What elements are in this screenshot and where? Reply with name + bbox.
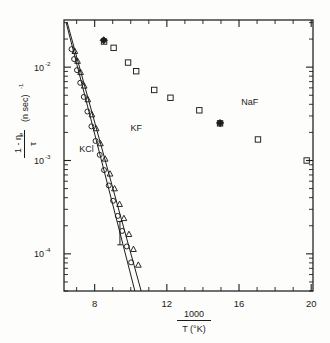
series-KCl — [69, 47, 134, 265]
y-axis-title-denominator: τ — [28, 142, 38, 146]
label-kcl: KCl — [79, 144, 94, 154]
point-NaF-5 — [168, 95, 173, 100]
y-axis-title-numerator: 1 - η — [13, 135, 23, 153]
series-annotations: KFKClNaF — [79, 97, 259, 154]
label-kf: KF — [130, 123, 142, 133]
x-axis-ticks — [77, 20, 312, 291]
point-NaF-2 — [125, 60, 130, 65]
point-NaF-1 — [111, 45, 116, 50]
x-tick-label-20: 20 — [306, 298, 317, 309]
label-naf: NaF — [241, 97, 259, 107]
y-tick-label--2: 10-2 — [34, 60, 51, 73]
x-axis-title-denominator: T (°K) — [182, 324, 205, 334]
y-axis-title-units-exponent: -1 — [17, 83, 24, 89]
point-KF-15 — [135, 262, 141, 267]
x-tick-label-8: 8 — [92, 298, 97, 309]
y-axis-tick-labels: 10-210-310-4 — [34, 60, 51, 260]
y-axis-title-units: (n sec) — [20, 94, 30, 122]
plot-frame-rect — [64, 20, 313, 291]
y-tick-label--3: 10-3 — [34, 153, 51, 166]
x-tick-label-12: 12 — [162, 298, 173, 309]
y-tick-mantissa: 10 — [34, 63, 44, 73]
point-NaF-8 — [255, 137, 260, 142]
y-tick-label--4: 10-4 — [34, 246, 51, 259]
y-axis-title: 1 - η e τ (n sec) -1 — [13, 83, 38, 158]
series-NaF-special — [100, 37, 224, 127]
y-tick-exponent: -3 — [45, 153, 51, 160]
y-tick-exponent: -4 — [45, 246, 51, 253]
y-tick-mantissa: 10 — [34, 156, 44, 166]
x-axis-title-numerator: 1000 — [184, 309, 204, 319]
point-KF-12 — [121, 215, 127, 220]
arrhenius-plot: 8121620 10-210-310-4 KFKClNaF 1000 T (°K… — [0, 0, 330, 343]
figure-container: 8121620 10-210-310-4 KFKClNaF 1000 T (°K… — [0, 0, 330, 343]
y-axis-title-numerator-subscript: e — [17, 132, 24, 136]
point-NaF-3 — [133, 69, 138, 74]
x-tick-label-16: 16 — [234, 298, 245, 309]
data-points — [69, 37, 309, 268]
y-tick-mantissa: 10 — [34, 249, 44, 259]
point-KF-13 — [126, 231, 132, 236]
series-NaF — [101, 39, 309, 163]
fit-lines — [66, 23, 141, 291]
x-axis-title: 1000 T (°K) — [177, 309, 211, 334]
y-tick-exponent: -2 — [45, 60, 51, 67]
point-NaF-6 — [197, 108, 202, 113]
point-NaF-4 — [152, 87, 157, 92]
x-axis-tick-labels: 8121620 — [92, 298, 316, 309]
plot-frame — [64, 20, 313, 291]
point-KF-14 — [131, 246, 137, 251]
